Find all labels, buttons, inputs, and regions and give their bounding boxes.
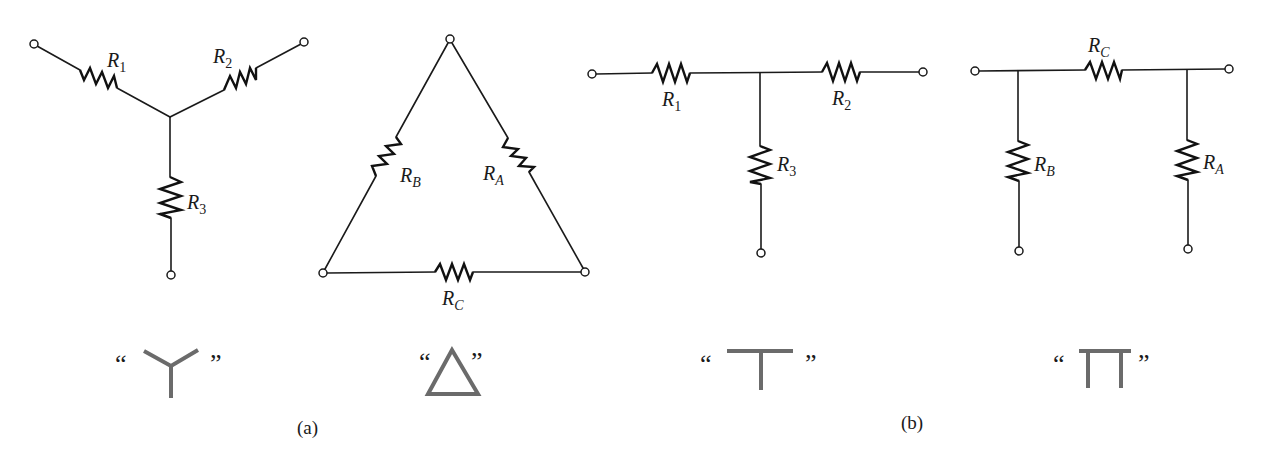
label-r1: R1 bbox=[661, 88, 681, 114]
resistor-rc-icon bbox=[435, 264, 473, 280]
terminal-icon bbox=[971, 67, 979, 75]
wire bbox=[170, 90, 224, 117]
close-quote: ” bbox=[471, 347, 483, 376]
pi-symbol: “ ” bbox=[1053, 349, 1150, 388]
open-quote: “ bbox=[419, 347, 431, 376]
terminal-icon bbox=[1184, 245, 1192, 253]
pi-network: RC RB RA bbox=[971, 34, 1233, 255]
resistor-r1-icon bbox=[652, 64, 690, 82]
close-quote: ” bbox=[210, 349, 222, 378]
terminal-icon bbox=[30, 40, 38, 48]
open-quote: “ bbox=[1053, 349, 1065, 378]
terminal-icon bbox=[167, 271, 175, 279]
wire bbox=[596, 73, 652, 74]
open-quote: “ bbox=[700, 349, 712, 378]
close-quote: ” bbox=[805, 349, 817, 378]
wye-symbol: “ ” bbox=[115, 349, 222, 398]
terminal-icon bbox=[446, 35, 454, 43]
label-ra: RA bbox=[482, 162, 504, 188]
resistor-ra-icon bbox=[503, 138, 534, 172]
terminal-icon bbox=[919, 68, 927, 76]
terminal-icon bbox=[300, 38, 308, 46]
wire bbox=[529, 172, 583, 268]
terminal-icon bbox=[1015, 247, 1023, 255]
label-r3: R3 bbox=[776, 153, 796, 179]
close-quote: ” bbox=[1138, 349, 1150, 378]
terminal-icon bbox=[319, 269, 327, 277]
label-rc: RC bbox=[441, 287, 464, 313]
label-r1: R1 bbox=[106, 49, 126, 75]
caption-b: (b) bbox=[901, 412, 923, 434]
wire bbox=[396, 43, 448, 137]
label-r2: R2 bbox=[212, 45, 232, 71]
resistor-rc-icon bbox=[1085, 62, 1122, 79]
wye-delta-tee-pi-figure: R1 R2 R3 RB RA RC bbox=[0, 0, 1261, 454]
label-ra: RA bbox=[1202, 151, 1224, 177]
open-quote: “ bbox=[115, 349, 127, 378]
terminal-icon bbox=[581, 268, 589, 276]
wire bbox=[325, 176, 376, 269]
tee-symbol: “ ” bbox=[700, 349, 817, 390]
resistor-r1-icon bbox=[80, 68, 117, 88]
wire bbox=[690, 72, 822, 73]
tee-network: R1 R2 R3 bbox=[588, 63, 927, 257]
label-rc: RC bbox=[1087, 34, 1110, 60]
terminal-icon bbox=[588, 70, 596, 78]
resistor-r2-icon bbox=[224, 68, 256, 90]
delta-network: RB RA RC bbox=[319, 35, 589, 313]
resistor-r2-icon bbox=[822, 63, 860, 81]
label-rb: RB bbox=[1033, 153, 1055, 179]
terminal-icon bbox=[1225, 65, 1233, 73]
wye-network: R1 R2 R3 bbox=[30, 38, 308, 279]
wire bbox=[979, 70, 1085, 71]
resistor-rb-icon bbox=[372, 137, 401, 176]
wire bbox=[37, 46, 80, 70]
label-r2: R2 bbox=[831, 87, 851, 113]
label-rb: RB bbox=[399, 164, 421, 190]
wire bbox=[452, 43, 508, 138]
wire bbox=[117, 88, 170, 117]
resistor-r3-icon bbox=[750, 146, 770, 184]
caption-a: (a) bbox=[297, 417, 318, 439]
terminal-icon bbox=[757, 249, 765, 257]
delta-symbol: “ ” bbox=[419, 347, 483, 394]
label-r3: R3 bbox=[186, 191, 206, 217]
wire bbox=[256, 44, 301, 68]
wye-shape-icon bbox=[144, 350, 198, 366]
resistor-r3-icon bbox=[160, 177, 181, 218]
wire bbox=[1122, 69, 1225, 70]
wire bbox=[327, 272, 435, 273]
resistor-rb-icon bbox=[1008, 141, 1028, 181]
resistor-ra-icon bbox=[1177, 140, 1197, 180]
